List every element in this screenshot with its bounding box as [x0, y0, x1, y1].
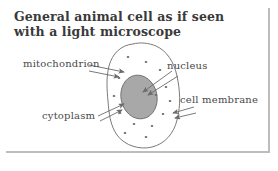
- label-cell-membrane: cell membrane: [180, 94, 258, 105]
- cell-diagram-figure: General animal cell as if seen with a li…: [0, 0, 278, 171]
- label-mitochondrion: mitochondrion: [23, 58, 100, 69]
- cell-drawing: [0, 0, 278, 171]
- label-cytoplasm: cytoplasm: [42, 110, 95, 121]
- label-nucleus: nucleus: [167, 60, 208, 71]
